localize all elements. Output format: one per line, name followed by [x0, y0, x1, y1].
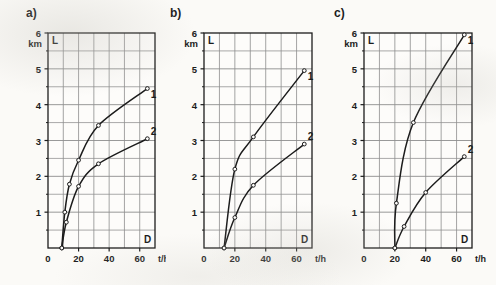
data-point — [462, 33, 466, 37]
data-point — [395, 201, 399, 205]
svg-text:40: 40 — [420, 253, 431, 264]
figure-canvas: 123456kmL0204060t/hD12 123456kmL0204060t… — [0, 0, 496, 285]
svg-text:4: 4 — [192, 100, 198, 111]
data-point — [64, 220, 68, 224]
data-point — [145, 137, 149, 141]
data-point — [222, 246, 226, 250]
svg-text:60: 60 — [291, 253, 302, 264]
svg-text:3: 3 — [192, 136, 197, 147]
series-label-1: 1 — [151, 89, 157, 100]
series-label-2: 2 — [151, 126, 157, 137]
svg-text:20: 20 — [230, 253, 241, 264]
data-point — [63, 210, 67, 214]
series-label-1: 1 — [308, 71, 314, 82]
y-axis-label: L — [368, 35, 374, 46]
plot-b-svg: 123456kmL0204060t/hD12 — [160, 0, 330, 285]
x-axis-ticks: 0204060 — [361, 248, 462, 264]
svg-text:0: 0 — [45, 253, 50, 264]
panel-tag-c: c) — [334, 6, 345, 20]
data-point — [233, 216, 237, 220]
series-label-2: 2 — [468, 144, 474, 155]
y-axis-unit: km — [344, 38, 358, 49]
svg-text:2: 2 — [192, 171, 197, 182]
svg-text:20: 20 — [390, 253, 401, 264]
svg-text:0: 0 — [201, 253, 206, 264]
data-point — [145, 87, 149, 91]
svg-text:60: 60 — [134, 253, 145, 264]
svg-text:1: 1 — [192, 207, 198, 218]
chart-panel-c: 123456kmL0204060t/hD12 — [324, 0, 496, 285]
y-axis-label: L — [208, 35, 214, 46]
svg-text:1: 1 — [352, 207, 358, 218]
data-point — [233, 167, 237, 171]
data-point — [77, 184, 81, 188]
data-point — [77, 158, 81, 162]
svg-text:20: 20 — [73, 253, 84, 264]
data-point — [302, 142, 306, 146]
data-point — [393, 246, 397, 250]
y-axis-label: L — [52, 35, 58, 46]
y-axis-ticks: 123456 — [192, 28, 204, 230]
x-axis-label: D — [461, 234, 468, 245]
data-point — [402, 225, 406, 229]
plot-c-svg: 123456kmL0204060t/hD12 — [324, 0, 496, 285]
svg-text:2: 2 — [352, 171, 357, 182]
data-point — [97, 124, 101, 128]
data-point — [97, 162, 101, 166]
svg-text:40: 40 — [260, 253, 271, 264]
data-point — [411, 121, 415, 125]
chart-panel-b: 123456kmL0204060t/hD12 — [160, 0, 330, 285]
svg-text:60: 60 — [451, 253, 462, 264]
panel-tag-b: b) — [170, 6, 181, 20]
svg-text:5: 5 — [36, 64, 42, 75]
data-point — [60, 246, 64, 250]
x-axis-label: D — [144, 234, 151, 245]
svg-text:5: 5 — [352, 64, 358, 75]
data-point — [251, 183, 255, 187]
y-axis-unit: km — [184, 38, 198, 49]
series-label-1: 1 — [468, 35, 474, 46]
series-label-2: 2 — [308, 131, 314, 142]
svg-text:40: 40 — [104, 253, 115, 264]
data-point — [302, 69, 306, 73]
x-axis-ticks: 0204060 — [45, 248, 145, 264]
x-axis-unit: t/h — [475, 254, 486, 264]
svg-text:1: 1 — [36, 207, 42, 218]
data-point — [462, 155, 466, 159]
svg-text:4: 4 — [36, 100, 42, 111]
svg-text:0: 0 — [361, 253, 366, 264]
svg-text:3: 3 — [352, 136, 357, 147]
y-axis-unit: km — [28, 38, 42, 49]
panel-tag-a: a) — [26, 6, 37, 20]
x-axis-label: D — [301, 234, 308, 245]
data-point — [251, 135, 255, 139]
svg-text:3: 3 — [36, 136, 41, 147]
plot-a-svg: 123456kmL0204060t/hD12 — [0, 0, 166, 285]
svg-text:2: 2 — [36, 171, 41, 182]
y-axis-ticks: 123456 — [36, 28, 48, 230]
data-point — [424, 191, 428, 195]
chart-panel-a: 123456kmL0204060t/hD12 — [0, 0, 166, 285]
x-axis-ticks: 0204060 — [201, 248, 302, 264]
data-point — [68, 182, 72, 186]
svg-text:5: 5 — [192, 64, 198, 75]
svg-text:4: 4 — [352, 100, 358, 111]
y-axis-ticks: 123456 — [352, 28, 364, 230]
